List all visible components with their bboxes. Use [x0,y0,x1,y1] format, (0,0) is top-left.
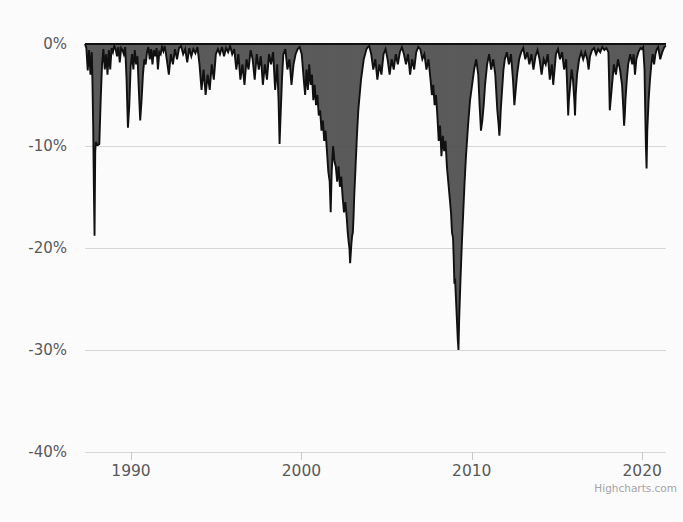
series-area-group [85,44,666,350]
highcharts-credit[interactable]: Highcharts.com [594,482,677,494]
series-line-drawdown [85,44,666,350]
x-axis-tick-label: 1990 [111,462,150,480]
x-axis-tick-label: 2010 [452,462,491,480]
y-axis-tick-label: -40% [28,443,67,461]
chart-svg: 0%-10%-20%-30%-40% 1990200020102020 High… [0,0,683,522]
x-axis-tick-label: 2000 [282,462,321,480]
drawdown-chart: 0%-10%-20%-30%-40% 1990200020102020 High… [0,0,683,522]
y-axis-tick-label: 0% [43,35,67,53]
x-axis-labels-group: 1990200020102020 [111,462,662,480]
y-axis-tick-label: -20% [28,239,67,257]
y-axis-tick-label: -10% [28,137,67,155]
y-axis-labels-group: 0%-10%-20%-30%-40% [28,35,67,461]
x-axis-tick-label: 2020 [622,462,661,480]
y-axis-tick-label: -30% [28,341,67,359]
gridlines-group [85,45,666,461]
series-area-drawdown [85,44,666,350]
